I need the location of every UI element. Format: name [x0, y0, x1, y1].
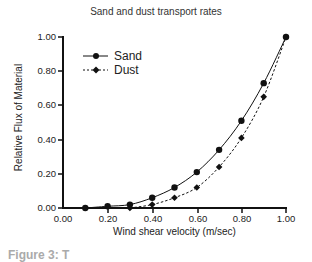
legend-dust: Dust	[114, 63, 139, 77]
legend: Sand Dust	[83, 49, 142, 77]
legend-sand: Sand	[114, 49, 142, 63]
dust-line	[130, 37, 286, 208]
dust-marker	[149, 201, 156, 208]
dust-marker	[260, 94, 267, 101]
figure-caption-partial: Figure 3: T	[8, 248, 69, 262]
sand-marker	[238, 118, 244, 124]
sand-marker	[149, 195, 155, 201]
sand-marker	[82, 205, 88, 211]
axes	[62, 36, 287, 209]
dust-marker	[171, 194, 178, 201]
sand-marker	[104, 203, 110, 209]
sand-marker	[194, 169, 200, 175]
sand-marker	[261, 80, 267, 86]
sand-marker	[216, 147, 222, 153]
dust-marker	[194, 184, 201, 191]
dust-marker	[238, 135, 245, 142]
sand-marker	[171, 184, 177, 190]
series-dust	[127, 34, 290, 212]
sand-marker	[127, 201, 133, 207]
sand-marker	[283, 34, 289, 40]
